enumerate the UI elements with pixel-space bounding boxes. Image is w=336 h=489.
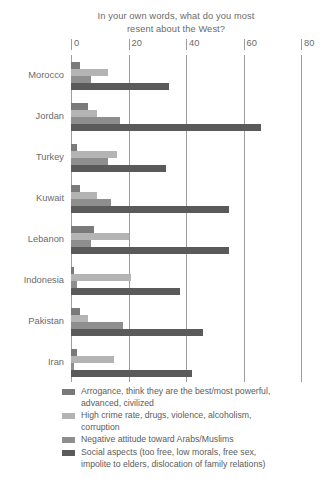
bar (71, 62, 80, 69)
chart-title: In your own words, what do you most rese… (46, 10, 306, 35)
category-label-jordan: Jordan (0, 111, 64, 121)
legend-item[interactable]: Arrogance, think they are the best/most … (62, 386, 334, 409)
bar (71, 329, 203, 336)
legend-swatch-icon (62, 413, 75, 419)
bar (71, 165, 166, 172)
bar (71, 281, 77, 288)
tick-mark-60 (244, 39, 245, 50)
bar (71, 185, 80, 192)
chart-title-line-2: resent about the West? (127, 24, 225, 34)
category-label-kuwait: Kuwait (0, 193, 64, 203)
bar (71, 247, 229, 254)
x-axis-tick-label: 60 (247, 38, 257, 48)
bar (71, 322, 123, 329)
tick-mark-80 (301, 39, 302, 50)
bar (71, 349, 77, 356)
bar (71, 69, 108, 76)
gridline-80 (301, 55, 302, 382)
legend-label: Arrogance, think they are the best/most … (81, 386, 334, 409)
x-axis-tick-label: 40 (189, 38, 199, 48)
bar (71, 274, 131, 281)
legend-label-line-1: Arrogance, think they are the best/most … (81, 386, 270, 396)
bar (71, 240, 91, 247)
category-label-lebanon: Lebanon (0, 234, 64, 244)
category-label-indonesia: Indonesia (0, 275, 64, 285)
legend-item[interactable]: Negative attitude toward Arabs/Muslims (62, 434, 334, 446)
bar (71, 267, 74, 274)
category-label-turkey: Turkey (0, 152, 64, 162)
tick-mark-20 (129, 39, 130, 50)
tick-mark-0 (71, 39, 72, 50)
bar (71, 233, 129, 240)
legend-label-line-1: Social aspects (too free, low morals, fr… (81, 447, 256, 457)
bar (71, 206, 229, 213)
legend-label: Negative attitude toward Arabs/Muslims (81, 434, 334, 446)
bar (71, 192, 97, 199)
bar (71, 226, 94, 233)
x-axis-tick-label: 80 (304, 38, 314, 48)
legend-label-line-2: impolite to elders, dislocation of famil… (81, 459, 265, 469)
bar (71, 199, 111, 206)
gridline-60 (244, 55, 245, 382)
bar (71, 103, 88, 110)
tick-mark-40 (186, 39, 187, 50)
legend-swatch-icon (62, 389, 75, 395)
chart-legend: Arrogance, think they are the best/most … (62, 386, 334, 472)
x-axis-tick-label: 20 (132, 38, 142, 48)
legend-swatch-icon (62, 450, 75, 456)
bar (71, 76, 91, 83)
category-label-morocco: Morocco (0, 70, 64, 80)
chart-container: In your own words, what do you most rese… (0, 0, 336, 489)
bar (71, 83, 169, 90)
legend-label-line-2: advanced, civilized (81, 398, 154, 408)
bar (71, 308, 80, 315)
bar (71, 110, 97, 117)
bar (71, 144, 77, 151)
chart-title-line-1: In your own words, what do you most (98, 11, 255, 21)
bar (71, 363, 74, 370)
bar (71, 117, 120, 124)
bar (71, 124, 261, 131)
bar (71, 370, 192, 377)
legend-label: Social aspects (too free, low morals, fr… (81, 447, 334, 470)
legend-swatch-icon (62, 437, 75, 443)
legend-label-line-1: High crime rate, drugs, violence, alcoho… (81, 410, 251, 420)
category-label-iran: Iran (0, 357, 64, 367)
bar (71, 158, 108, 165)
legend-label: High crime rate, drugs, violence, alcoho… (81, 410, 334, 433)
legend-item[interactable]: Social aspects (too free, low morals, fr… (62, 447, 334, 470)
bar (71, 288, 180, 295)
bar (71, 315, 88, 322)
bar (71, 356, 114, 363)
category-label-pakistan: Pakistan (0, 316, 64, 326)
legend-label-line-2: corruption (81, 422, 120, 432)
bar (71, 151, 117, 158)
legend-item[interactable]: High crime rate, drugs, violence, alcoho… (62, 410, 334, 433)
x-axis-tick-label: 0 (74, 38, 79, 48)
